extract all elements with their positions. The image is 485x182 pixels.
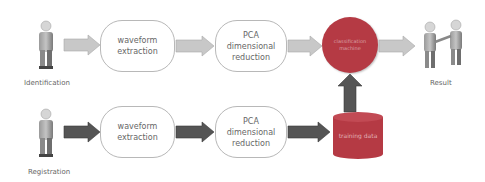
classification-machine: classification machine (322, 17, 378, 73)
arrow-classifier-to-result (379, 36, 415, 56)
training-data-label: training data (332, 132, 384, 139)
result-label: Result (430, 79, 452, 87)
registration-label: Registration (28, 168, 70, 176)
arrow-waveform-to-pca-registration (176, 122, 214, 142)
pca-reduction-box-identification: PCA dimensional reduction (215, 20, 287, 72)
waveform-extraction-label: waveform extraction (105, 121, 170, 143)
arrow-pca-to-classifier (288, 36, 322, 56)
arrow-waveform-to-pca-identification (176, 36, 214, 56)
handshake-result-icon (420, 20, 468, 70)
identification-label: Identification (24, 79, 70, 87)
arrow-identification-to-waveform (64, 35, 100, 55)
waveform-extraction-box-registration: waveform extraction (100, 106, 175, 158)
pca-reduction-box-registration: PCA dimensional reduction (215, 106, 287, 158)
classification-machine-label: classification machine (328, 38, 372, 52)
waveform-extraction-label: waveform extraction (105, 35, 170, 57)
pca-reduction-label: PCA dimensional reduction (220, 116, 282, 149)
pca-reduction-label: PCA dimensional reduction (220, 30, 282, 63)
person-registration-icon (36, 108, 56, 158)
waveform-extraction-box-identification: waveform extraction (100, 20, 175, 72)
arrow-pca-to-training-data (288, 122, 330, 142)
arrow-registration-to-waveform (64, 122, 100, 142)
training-data-cylinder: training data (332, 112, 384, 160)
person-identification-icon (36, 20, 56, 70)
arrow-training-to-classifier (338, 74, 362, 112)
